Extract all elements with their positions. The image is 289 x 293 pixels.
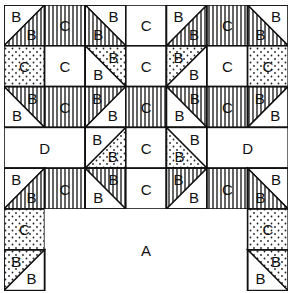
patch-label: C (141, 99, 152, 116)
patch-label: B (109, 8, 119, 25)
patch-label: B (271, 253, 281, 270)
patch-label: C (222, 58, 233, 75)
patch-label: C (262, 221, 273, 238)
patch-label: B (271, 8, 281, 25)
patch-label: A (141, 242, 151, 259)
quilt-grid: BBCBBCBBCBBCCBBCBBCCBBCBBCBBCBBDBBCBBDBB… (4, 5, 288, 291)
patch-label: C (222, 181, 233, 198)
patch-label: C (141, 181, 152, 198)
patch-label: B (256, 270, 266, 287)
patch-label: B (189, 189, 199, 206)
patch-label: B (174, 171, 184, 188)
patch-label: B (174, 8, 184, 25)
patch-label: B (93, 189, 103, 206)
patch-label: B (11, 8, 21, 25)
patch-label: C (222, 17, 233, 34)
patch-label: B (190, 90, 200, 107)
patch-label: B (271, 171, 281, 188)
patch-label: B (92, 131, 102, 148)
patch-label: B (27, 270, 37, 287)
patch-label: B (108, 107, 118, 124)
patch-label: B (93, 26, 103, 43)
patch-label: C (141, 140, 152, 157)
patch-label: B (12, 107, 22, 124)
patch-label: B (174, 107, 184, 124)
patch-label: C (222, 99, 233, 116)
patch-label: D (242, 140, 253, 157)
patch-label: B (108, 148, 118, 165)
patch-label: B (174, 49, 184, 66)
patch-label: C (141, 17, 152, 34)
patch-label: C (59, 99, 70, 116)
patch-label: C (59, 181, 70, 198)
patch-label: B (27, 26, 37, 43)
patch-label: B (93, 66, 103, 83)
patch-label: C (19, 221, 30, 238)
patch-label: B (270, 107, 280, 124)
patch-label: B (92, 90, 102, 107)
patch-label: C (141, 58, 152, 75)
patch-label: C (19, 58, 30, 75)
patch-label: C (59, 17, 70, 34)
patch-label: B (27, 189, 37, 206)
patch-label: B (189, 66, 199, 83)
quilt-diagram: BBCBBCBBCBBCCBBCBBCCBBCBBCBBCBBDBBCBBDBB… (4, 5, 288, 291)
patch-label: B (189, 26, 199, 43)
patch-label: B (11, 171, 21, 188)
patch-label: B (11, 253, 21, 270)
patch-label: B (109, 49, 119, 66)
patch-label: B (27, 90, 37, 107)
patch-label: C (59, 58, 70, 75)
patch-label: B (109, 171, 119, 188)
patch-label: D (39, 140, 50, 157)
patch-label: B (255, 90, 265, 107)
patch-label: B (256, 26, 266, 43)
patch-label: B (190, 131, 200, 148)
patch-label: C (262, 58, 273, 75)
patch-label: B (174, 148, 184, 165)
patch-label: B (256, 189, 266, 206)
